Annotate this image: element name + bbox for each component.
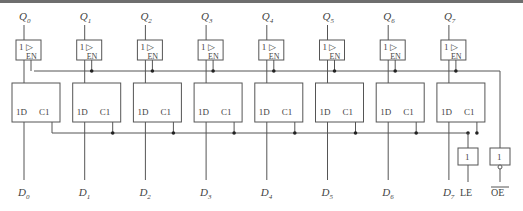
output-label-q3: Q3 [201, 10, 213, 25]
latch-d-label: 1D [77, 107, 89, 117]
junction-dot [172, 131, 176, 135]
buffer-label: 1 ▷ [80, 42, 94, 52]
input-label-d6: D6 [381, 186, 394, 201]
output-label-q7: Q7 [444, 10, 456, 25]
buffer-en-label: EN [208, 52, 219, 61]
latch-c-label: C1 [160, 107, 171, 117]
latch-c-label: C1 [282, 107, 293, 117]
buffer-label: 1 ▷ [383, 42, 397, 52]
junction-dot [90, 69, 94, 73]
input-label-d0: D0 [17, 186, 30, 201]
latch-c-label: C1 [39, 107, 50, 117]
latch-d-label: 1D [137, 107, 149, 117]
inversion-bubble [498, 165, 502, 169]
output-label-q2: Q2 [140, 10, 152, 25]
junction-dot [475, 131, 479, 135]
input-label-d3: D3 [199, 186, 212, 201]
junction-dot [293, 131, 297, 135]
junction-dot [272, 69, 276, 73]
input-label-d5: D5 [321, 186, 334, 201]
latch-d-label: 1D [198, 107, 210, 117]
buffer-label: 1 ▷ [323, 42, 337, 52]
buffer-label: 1 ▷ [19, 42, 33, 52]
junction-dot [232, 131, 236, 135]
input-label-d7: D7 [442, 186, 455, 201]
oe-gate-label: 1 [497, 152, 502, 162]
latch-c-label: C1 [403, 107, 414, 117]
latch-d-label: 1D [441, 107, 453, 117]
latch-d-label: 1D [259, 107, 271, 117]
junction-dot [211, 69, 215, 73]
buffer-label: 1 ▷ [444, 42, 458, 52]
buffer-en-label: EN [87, 52, 98, 61]
latch-diagram: Q01 ▷EN1DC1D0Q11 ▷EN1DC1D1Q21 ▷EN1DC1D2Q… [0, 0, 523, 211]
junction-dot [393, 69, 397, 73]
latch-c-label: C1 [464, 107, 475, 117]
junction-dot [354, 131, 358, 135]
buffer-label: 1 ▷ [262, 42, 276, 52]
buffer-en-label: EN [26, 52, 37, 61]
junction-dot [454, 69, 458, 73]
output-label-q0: Q0 [19, 10, 31, 25]
input-label-d1: D1 [78, 186, 90, 201]
output-label-q6: Q6 [383, 10, 395, 25]
input-label-d4: D4 [260, 186, 273, 201]
junction-dot [111, 131, 115, 135]
latch-d-label: 1D [16, 107, 28, 117]
junction-dot [333, 69, 337, 73]
latch-d-label: 1D [320, 107, 332, 117]
le-pin-label: LE [460, 187, 472, 198]
junction-dot [414, 131, 418, 135]
latch-c-label: C1 [100, 107, 111, 117]
output-label-q1: Q1 [80, 10, 91, 25]
buffer-label: 1 ▷ [201, 42, 215, 52]
latch-c-label: C1 [221, 107, 232, 117]
buffer-en-label: EN [451, 52, 462, 61]
buffer-en-label: EN [147, 52, 158, 61]
buffer-en-label: EN [330, 52, 341, 61]
input-label-d2: D2 [138, 186, 151, 201]
oe-pin-label: OE [491, 187, 504, 198]
output-label-q4: Q4 [262, 10, 274, 25]
buffer-label: 1 ▷ [140, 42, 154, 52]
latch-d-label: 1D [380, 107, 392, 117]
buffer-en-label: EN [390, 52, 401, 61]
le-gate-label: 1 [465, 152, 470, 162]
output-label-q5: Q5 [323, 10, 335, 25]
junction-dot [151, 69, 155, 73]
latch-c-label: C1 [343, 107, 354, 117]
buffer-en-label: EN [269, 52, 280, 61]
